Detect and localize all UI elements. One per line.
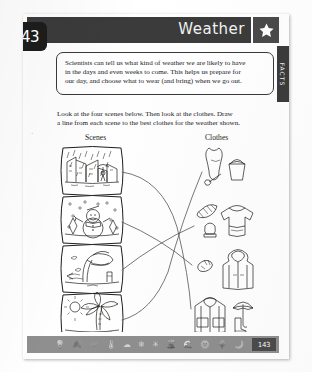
footer-page-number: 143 (252, 338, 276, 351)
volcano-icon: 🌋 (166, 341, 176, 349)
line-wind-to-sweater (122, 226, 194, 270)
clothes-swim (205, 148, 246, 185)
sun-icon: ☀ (152, 341, 159, 349)
facts-line-3: our day, and choose what to wear (and br… (65, 77, 265, 86)
instructions: Look at the four scenes below. Then look… (57, 110, 279, 128)
line-snow-to-jacket (122, 222, 192, 265)
cloud-icon: ☁ (123, 341, 131, 349)
page-number-tab: 43 (23, 22, 47, 51)
bird-icon: 🐦 (89, 341, 99, 349)
facts-box: Scientists can tell us what kind of weat… (56, 52, 274, 95)
scene-snow (61, 196, 123, 245)
lightbulb-icon: 💡 (55, 341, 65, 349)
clothes-rain (195, 298, 253, 333)
clothes-jacket (198, 250, 253, 290)
star-icon (251, 17, 279, 43)
wave-icon: 🌊 (183, 341, 193, 349)
thermometer-icon: 🌡 (106, 341, 116, 349)
facts-line-2: in the days and even weeks to come. This… (65, 68, 265, 77)
planet-icon: 🌞 (200, 341, 210, 349)
leaf-icon: 🍂 (72, 341, 82, 349)
page-footer: 💡 🍂 🐦 🌡 ☁ ❄ ☀ 🌋 🌊 🌞 🌳 🌙 143 (27, 336, 279, 353)
facts-line-1: Scientists can tell us what kind of weat… (65, 59, 265, 68)
matching-lines (122, 172, 202, 320)
instructions-line-1: Look at the four scenes below. Then look… (57, 110, 279, 119)
worksheet-page: Weather FACTS Scientists can tell us wha… (0, 0, 312, 372)
footer-icon-strip: 💡 🍂 🐦 🌡 ☁ ❄ ☀ 🌋 🌊 🌞 🌳 🌙 (27, 336, 252, 353)
scene-sun (61, 292, 123, 332)
margin-pencil-mark: · (31, 130, 33, 138)
instructions-line-2: a line from each scene to the best cloth… (57, 119, 279, 128)
clothes-warm (197, 205, 253, 237)
scenes-column-label: Scenes (85, 133, 106, 142)
moon-icon: 🌙 (234, 341, 244, 349)
facts-side-tab-label: FACTS (280, 62, 287, 86)
scene-rain (61, 147, 123, 196)
page-title: Weather (178, 20, 245, 40)
tree-icon: 🌳 (217, 341, 227, 349)
scanned-sheet: Weather FACTS Scientists can tell us wha… (23, 14, 289, 359)
page-header: Weather (27, 17, 279, 43)
line-rain-to-raincoat (122, 172, 191, 309)
snowflake-icon: ❄ (138, 341, 145, 349)
clothes-column-label: Clothes (205, 133, 228, 142)
facts-side-tab: FACTS (277, 46, 289, 102)
scene-wind (61, 245, 123, 294)
matching-activity-area: .ln{fill:none;stroke:#1d1d1b;stroke-widt… (23, 142, 289, 332)
